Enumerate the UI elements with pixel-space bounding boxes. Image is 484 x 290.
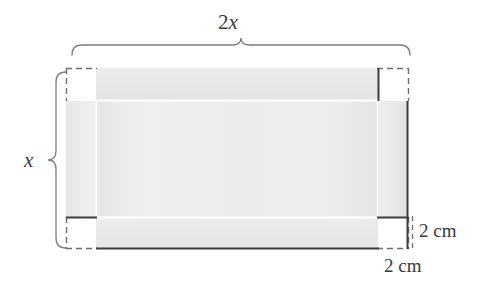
panel-top-flap xyxy=(96,68,378,100)
panel-base xyxy=(96,101,378,217)
corner-cutout-bottom-left xyxy=(66,218,96,249)
dimension-label-width-variable: x xyxy=(229,10,238,34)
dimension-label-cut-bottom: 2 cm xyxy=(384,256,421,275)
geometry-diagram-svg xyxy=(0,0,484,290)
sheet-shading xyxy=(66,68,408,249)
brace-top-width xyxy=(72,38,410,55)
dimension-label-height: x xyxy=(24,150,33,171)
brace-left-height xyxy=(48,72,66,248)
dimension-label-width: 2x xyxy=(218,12,238,33)
panel-left-flap xyxy=(66,101,96,217)
corner-cutout-top-right xyxy=(378,68,408,100)
panel-right-flap xyxy=(378,101,408,217)
panel-bottom-flap xyxy=(96,218,378,249)
corner-cutout-top-left xyxy=(66,68,96,100)
dimension-label-height-variable: x xyxy=(24,148,33,172)
dimension-label-cut-right: 2 cm xyxy=(419,221,456,240)
corner-cutout-bottom-right xyxy=(378,218,408,249)
figure-root: 2x x 2 cm 2 cm xyxy=(0,0,484,290)
dimension-label-width-coefficient: 2 xyxy=(218,10,229,34)
brace-left-path xyxy=(48,72,66,248)
brace-top-path xyxy=(72,38,410,55)
